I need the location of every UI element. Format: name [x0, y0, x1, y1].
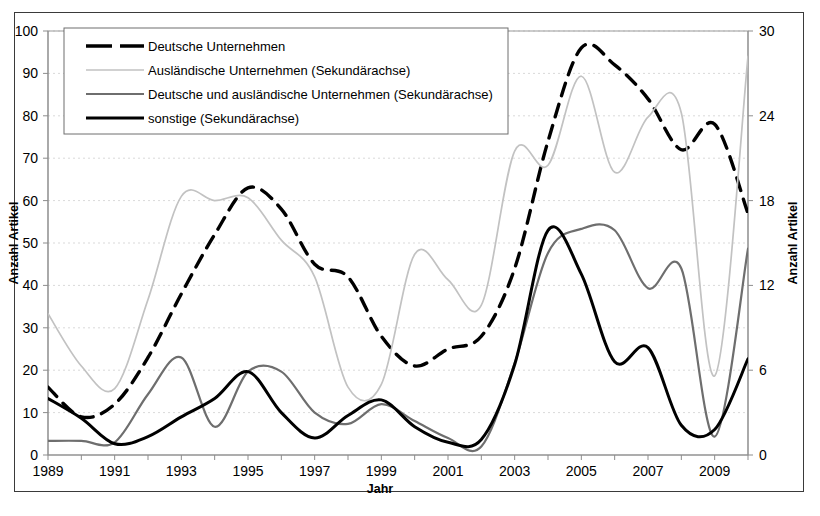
- x-axis-tick-label: 2001: [432, 463, 463, 479]
- y-axis-right-tick-label: 30: [759, 23, 775, 39]
- chart-screenshot: 0102030405060708090100Anzahl Artikel0612…: [0, 0, 820, 516]
- y-axis-left-tick-label: 40: [22, 277, 38, 293]
- y-axis-left-tick-label: 90: [22, 65, 38, 81]
- y-axis-left-tick-label: 10: [22, 405, 38, 421]
- x-axis-tick-label: 1989: [32, 463, 63, 479]
- x-axis-tick-label: 2003: [499, 463, 530, 479]
- legend-label-2: Deutsche und ausländische Unternehmen (S…: [148, 87, 493, 102]
- y-axis-right-tick-label: 18: [759, 193, 775, 209]
- x-axis-tick-label: 1995: [232, 463, 263, 479]
- series-line-3: [48, 227, 748, 447]
- y-axis-left-tick-label: 20: [22, 362, 38, 378]
- y-axis-right-tick-label: 12: [759, 277, 775, 293]
- x-axis-tick-label: 1999: [366, 463, 397, 479]
- y-axis-left-tick-label: 30: [22, 320, 38, 336]
- y-axis-left-tick-label: 70: [22, 150, 38, 166]
- y-axis-right-title: Anzahl Artikel: [786, 202, 800, 285]
- series-line-2: [48, 224, 748, 451]
- y-axis-left-tick-label: 100: [15, 23, 39, 39]
- y-axis-left-tick-label: 0: [30, 447, 38, 463]
- line-chart: 0102030405060708090100Anzahl Artikel0612…: [0, 0, 820, 516]
- y-axis-left-tick-label: 50: [22, 235, 38, 251]
- x-axis-tick-label: 2009: [699, 463, 730, 479]
- x-axis-tick-label: 2007: [632, 463, 663, 479]
- y-axis-right-tick-label: 6: [759, 362, 767, 378]
- x-axis-tick-label: 1997: [299, 463, 330, 479]
- x-axis-tick-label: 2005: [566, 463, 597, 479]
- y-axis-left-tick-label: 60: [22, 193, 38, 209]
- x-axis-tick-label: 1993: [166, 463, 197, 479]
- legend-label-3: sonstige (Sekundärachse): [148, 111, 299, 126]
- y-axis-right-tick-label: 0: [759, 447, 767, 463]
- y-axis-left-title: Anzahl Artikel: [7, 202, 21, 285]
- x-axis-title: Jahr: [367, 482, 394, 496]
- y-axis-right-tick-label: 24: [759, 108, 775, 124]
- x-axis-tick-label: 1991: [99, 463, 130, 479]
- y-axis-left-tick-label: 80: [22, 108, 38, 124]
- legend-label-0: Deutsche Unternehmen: [148, 39, 285, 54]
- legend-label-1: Ausländische Unternehmen (Sekundärachse): [148, 63, 410, 78]
